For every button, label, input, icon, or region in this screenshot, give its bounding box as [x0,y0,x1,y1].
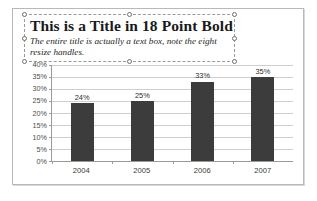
title-subtitle: The entire title is actually a text box,… [30,36,226,57]
bar-series: 24%25%33%35% [52,65,293,161]
resize-handle-middle-right[interactable] [232,36,237,41]
y-axis-tick-mark [49,125,52,126]
page-title: This is a Title in 18 Point Bold [30,17,230,34]
y-axis-tick-label: 25% [19,98,47,105]
plot-area: 24%25%33%35% [51,65,293,162]
x-axis-tick-mark [52,161,53,164]
x-axis-tick-mark [233,161,234,164]
y-axis-tick-mark [49,101,52,102]
title-text-box[interactable]: This is a Title in 18 Point Bold The ent… [24,14,235,62]
bar-data-label: 25% [112,92,172,99]
x-axis-tick-label: 2005 [112,166,173,175]
title-text-box-content: This is a Title in 18 Point Bold The ent… [25,15,234,57]
x-axis-tick-label: 2006 [172,166,233,175]
resize-handle-bottom-right[interactable] [232,59,237,64]
bar[interactable] [251,77,274,161]
resize-handle-top-center[interactable] [127,12,132,17]
bar-data-label: 24% [52,94,112,101]
y-axis-tick-mark [49,77,52,78]
y-axis-tick-label: 0% [19,158,47,165]
x-axis: 2004200520062007 [51,166,293,175]
bar-slot: 35% [233,65,293,161]
x-axis-tick-mark [112,161,113,164]
bar-slot: 25% [112,65,172,161]
x-axis-tick-label: 2007 [233,166,294,175]
y-axis-tick-mark [49,161,52,162]
y-axis-tick-mark [49,137,52,138]
bar-data-label: 35% [233,68,293,75]
resize-handle-top-right[interactable] [232,12,237,17]
x-axis-tick-mark [173,161,174,164]
bar[interactable] [71,103,94,161]
resize-handle-top-left[interactable] [22,12,27,17]
y-axis-tick-label: 40% [19,61,47,68]
resize-handle-bottom-center[interactable] [127,59,132,64]
y-axis-tick-label: 10% [19,134,47,141]
y-axis-tick-mark [49,89,52,90]
y-axis-tick-mark [49,113,52,114]
y-axis: 40%35%30%25%20%15%10%5%0% [19,65,49,162]
bar-chart[interactable]: 40%35%30%25%20%15%10%5%0% 24%25%33%35% 2… [19,65,297,180]
bar-data-label: 33% [173,72,233,79]
y-axis-tick-mark [49,149,52,150]
y-axis-tick-label: 30% [19,86,47,93]
bar[interactable] [131,101,154,161]
bar-slot: 24% [52,65,112,161]
slide-frame: This is a Title in 18 Point Bold The ent… [12,8,304,185]
y-axis-tick-label: 15% [19,122,47,129]
y-axis-tick-label: 5% [19,146,47,153]
bar[interactable] [191,82,214,161]
bar-slot: 33% [173,65,233,161]
y-axis-tick-label: 20% [19,110,47,117]
x-axis-tick-label: 2004 [51,166,112,175]
y-axis-tick-mark [49,65,52,66]
resize-handle-middle-left[interactable] [22,36,27,41]
y-axis-tick-label: 35% [19,74,47,81]
